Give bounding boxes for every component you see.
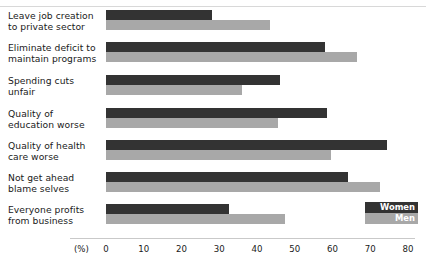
bar-pair: [106, 75, 280, 95]
bar-women: [106, 140, 387, 150]
category-label-line: Leave job creation: [8, 10, 100, 21]
bar-women: [106, 10, 212, 20]
x-tick-label: 60: [327, 244, 338, 254]
category-label-line: Quality of: [8, 108, 100, 119]
category-label-line: education worse: [8, 119, 100, 130]
bar-pair: [106, 10, 270, 30]
category-label-line: Everyone profits: [8, 204, 100, 215]
x-axis-line: [70, 238, 415, 239]
x-tick-label: 50: [289, 244, 300, 254]
x-tick-label: 10: [138, 244, 149, 254]
bar-men: [106, 20, 270, 30]
bar-pair: [106, 42, 357, 62]
bar-chart: Leave job creationto private sectorElimi…: [0, 0, 426, 267]
x-tick-label: 40: [252, 244, 263, 254]
category-label: Not get aheadblame selves: [8, 172, 100, 195]
category-label-line: Not get ahead: [8, 172, 100, 183]
bar-men: [106, 214, 285, 224]
bar-pair: [106, 172, 380, 192]
category-label: Eliminate deficit tomaintain programs: [8, 42, 100, 65]
category-label-line: Eliminate deficit to: [8, 42, 100, 53]
bar-pair: [106, 140, 387, 160]
x-tick-label: 70: [365, 244, 376, 254]
bar-women: [106, 75, 280, 85]
category-label: Leave job creationto private sector: [8, 10, 100, 33]
bar-women: [106, 172, 348, 182]
category-label-line: Spending cuts: [8, 75, 100, 86]
category-label-line: care worse: [8, 151, 100, 162]
x-tick-label: 80: [403, 244, 414, 254]
bar-pair: [106, 204, 285, 224]
category-label-line: from business: [8, 215, 100, 226]
bar-pair: [106, 108, 327, 128]
category-label-line: Quality of health: [8, 140, 100, 151]
category-label: Quality ofeducation worse: [8, 108, 100, 131]
x-tick-label: 20: [176, 244, 187, 254]
bar-women: [106, 108, 327, 118]
category-label: Spending cutsunfair: [8, 75, 100, 98]
bar-women: [106, 42, 325, 52]
bar-men: [106, 52, 357, 62]
bar-men: [106, 150, 331, 160]
bar-men: [106, 182, 380, 192]
category-label-line: maintain programs: [8, 53, 100, 64]
chart-legend: Women Men: [365, 202, 418, 224]
category-label: Everyone profitsfrom business: [8, 204, 100, 227]
legend-item-men: Men: [365, 213, 418, 224]
top-divider: [0, 6, 426, 7]
legend-item-women: Women: [365, 202, 418, 213]
bar-men: [106, 118, 278, 128]
bar-men: [106, 85, 242, 95]
x-axis-unit-label: (%): [74, 244, 89, 254]
category-label-line: to private sector: [8, 21, 100, 32]
x-tick-label: 0: [103, 244, 108, 254]
category-label: Quality of healthcare worse: [8, 140, 100, 163]
category-label-line: unfair: [8, 86, 100, 97]
x-tick-label: 30: [214, 244, 225, 254]
bar-women: [106, 204, 229, 214]
category-label-line: blame selves: [8, 183, 100, 194]
